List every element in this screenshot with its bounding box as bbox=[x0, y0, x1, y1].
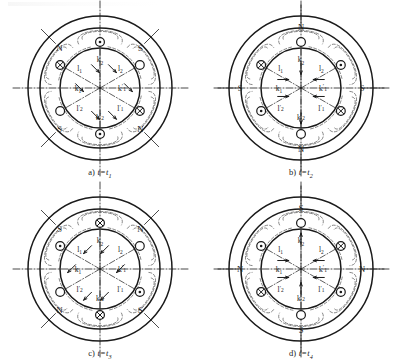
winding-label-l1-prime: l′1 bbox=[117, 285, 123, 295]
panel-caption-c: c) t=t3 bbox=[0, 348, 200, 360]
conductor-slot-bottom-circle bbox=[297, 130, 306, 139]
caption-index: 1 bbox=[109, 172, 112, 179]
conductor-slot-lower-left-cross bbox=[257, 288, 266, 297]
pole-label-s-top: S bbox=[299, 203, 304, 213]
winding-label-k2: k2 bbox=[97, 236, 104, 246]
machine-cross-section-d: SNNSk2l2k′1l′1k′2l′2k1l1 bbox=[201, 181, 401, 361]
conductor-slot-top-circle bbox=[297, 38, 306, 47]
pole-label-s-bottom: S bbox=[299, 325, 304, 335]
panel-d: SNNSk2l2k′1l′1k′2l′2k1l1d) t=t4 bbox=[201, 181, 401, 361]
panel-caption-a: a) t=t1 bbox=[0, 167, 200, 179]
winding-label-l2-prime: l′2 bbox=[77, 104, 83, 114]
pole-label-s-upper-right: S bbox=[138, 43, 143, 53]
winding-label-l1: l1 bbox=[77, 245, 82, 255]
winding-label-l1: l1 bbox=[77, 64, 82, 74]
pole-label-n-lower-left: N bbox=[57, 305, 63, 315]
conductor-slot-lower-right-dot bbox=[135, 288, 144, 297]
caption-time: t=t4 bbox=[299, 348, 313, 358]
winding-label-l2-prime: l′2 bbox=[278, 285, 284, 295]
pole-label-n-upper-right: N bbox=[137, 224, 143, 234]
winding-label-l1-prime: l′1 bbox=[117, 104, 123, 114]
panel-c: SNNSk2l2k′1l′1k′2l′2k1l1c) t=t3 bbox=[0, 181, 200, 361]
winding-label-k2: k2 bbox=[298, 236, 305, 246]
winding-label-l2: l2 bbox=[118, 245, 123, 255]
conductor-slot-lower-left-dot bbox=[257, 107, 266, 116]
winding-label-k1-prime: k′1 bbox=[118, 264, 126, 274]
winding-label-k1-prime: k′1 bbox=[118, 83, 126, 93]
pole-label-s-upper-left: S bbox=[57, 224, 62, 234]
caption-time: t=t1 bbox=[97, 167, 111, 177]
conductor-slot-upper-left-dot bbox=[56, 242, 65, 251]
winding-label-l1: l1 bbox=[278, 245, 283, 255]
pole-label-n-right: N bbox=[359, 264, 365, 274]
winding-label-l2: l2 bbox=[319, 64, 324, 74]
winding-label-k1: k1 bbox=[276, 84, 283, 94]
winding-label-l1-prime: l′1 bbox=[318, 104, 324, 114]
conductor-slot-upper-right-cross bbox=[336, 242, 345, 251]
pole-label-s-lower-right: S bbox=[138, 305, 143, 315]
winding-label-k2-prime: k′2 bbox=[96, 293, 104, 303]
conductor-slot-bottom-cross bbox=[96, 311, 105, 320]
panel-b: NSSNk2l2k′1l′1k′2l′2k1l1b) t=t2 bbox=[201, 0, 401, 180]
conductor-slot-lower-right-cross bbox=[336, 107, 345, 116]
pole-label-n-top: N bbox=[298, 22, 304, 32]
conductor-slot-upper-right-dot bbox=[336, 61, 345, 70]
caption-time: t=t2 bbox=[299, 167, 313, 177]
winding-label-k1: k1 bbox=[276, 265, 283, 275]
winding-label-l2: l2 bbox=[118, 64, 123, 74]
winding-label-l2-prime: l′2 bbox=[77, 285, 83, 295]
conductor-slot-bottom-circle bbox=[297, 311, 306, 320]
pole-label-n-upper-left: N bbox=[57, 43, 63, 53]
machine-cross-section-c: SNNSk2l2k′1l′1k′2l′2k1l1 bbox=[0, 181, 200, 361]
winding-label-l2: l2 bbox=[319, 245, 324, 255]
caption-index: 3 bbox=[109, 353, 112, 360]
panel-caption-d: d) t=t4 bbox=[201, 348, 401, 360]
pole-label-n-lower-right: N bbox=[137, 124, 143, 134]
caption-index: 4 bbox=[310, 353, 313, 360]
caption-label: d) bbox=[289, 348, 299, 358]
panel-caption-b: b) t=t2 bbox=[201, 167, 401, 179]
conductor-slot-lower-right-cross bbox=[135, 107, 144, 116]
conductor-slot-lower-left-circle bbox=[56, 288, 65, 297]
winding-label-k1: k1 bbox=[75, 265, 82, 275]
pole-label-s-right: S bbox=[360, 83, 365, 93]
winding-label-l1: l1 bbox=[278, 64, 283, 74]
winding-label-k2-prime: k′2 bbox=[297, 293, 305, 303]
winding-label-k1-prime: k′1 bbox=[319, 264, 327, 274]
conductor-slot-upper-right-circle bbox=[135, 61, 144, 70]
figure-grid: NSSNk2l2k′1l′1k′2l′2k1l1a) t=t1 NSSNk2l2… bbox=[0, 0, 401, 361]
winding-label-k2: k2 bbox=[298, 55, 305, 65]
winding-label-l2-prime: l′2 bbox=[278, 104, 284, 114]
winding-label-k2-prime: k′2 bbox=[96, 112, 104, 122]
pole-label-s-lower-left: S bbox=[57, 124, 62, 134]
conductor-slot-bottom-dot bbox=[96, 130, 105, 139]
pole-label-n-left: N bbox=[237, 264, 243, 274]
winding-label-k1-prime: k′1 bbox=[319, 83, 327, 93]
caption-index: 2 bbox=[310, 172, 313, 179]
conductor-slot-upper-left-dot bbox=[257, 242, 266, 251]
machine-cross-section-a: NSSNk2l2k′1l′1k′2l′2k1l1 bbox=[0, 0, 200, 180]
conductor-slot-upper-right-circle bbox=[135, 242, 144, 251]
winding-label-k2: k2 bbox=[97, 55, 104, 65]
caption-label: b) bbox=[289, 167, 299, 177]
pole-label-s-left: S bbox=[238, 83, 243, 93]
winding-label-k1: k1 bbox=[75, 84, 82, 94]
panel-a: NSSNk2l2k′1l′1k′2l′2k1l1a) t=t1 bbox=[0, 0, 200, 180]
pole-label-n-bottom: N bbox=[298, 144, 304, 154]
conductor-slot-lower-left-circle bbox=[56, 107, 65, 116]
conductor-slot-top-dot bbox=[96, 38, 105, 47]
conductor-slot-upper-left-cross bbox=[257, 61, 266, 70]
conductor-slot-top-cross bbox=[96, 219, 105, 228]
caption-time: t=t3 bbox=[97, 348, 111, 358]
winding-label-l1-prime: l′1 bbox=[318, 285, 324, 295]
conductor-slot-upper-left-cross bbox=[56, 61, 65, 70]
conductor-slot-lower-right-dot bbox=[336, 288, 345, 297]
machine-cross-section-b: NSSNk2l2k′1l′1k′2l′2k1l1 bbox=[201, 0, 401, 180]
conductor-slot-top-circle bbox=[297, 219, 306, 228]
